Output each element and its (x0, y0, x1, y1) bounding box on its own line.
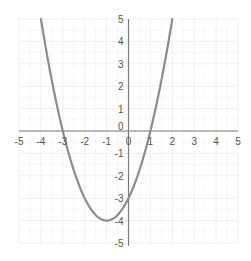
y-tick-label: 5 (118, 14, 124, 25)
x-tick-label: -5 (15, 136, 24, 147)
parabola-chart: -5-4-3-2-1012345 -5-4-3-2-1012345 (0, 0, 251, 261)
y-tick-label: -3 (115, 193, 124, 204)
y-tick-label: -4 (115, 216, 124, 227)
x-tick-label: -2 (80, 136, 89, 147)
y-tick-label: 2 (118, 81, 124, 92)
x-tick-label: -4 (36, 136, 45, 147)
x-tick-label: 5 (235, 136, 241, 147)
y-tick-label: -2 (115, 171, 124, 182)
x-tick-labels: -5-4-3-2-1012345 (15, 136, 242, 147)
x-tick-label: -3 (58, 136, 67, 147)
x-tick-label: 3 (191, 136, 197, 147)
y-tick-label: 4 (118, 36, 124, 47)
y-tick-label: 0 (118, 121, 124, 132)
x-tick-label: 4 (213, 136, 219, 147)
x-tick-label: 0 (126, 136, 132, 147)
x-tick-label: 1 (148, 136, 154, 147)
y-tick-label: 1 (118, 104, 124, 115)
y-tick-label: 3 (118, 59, 124, 70)
x-tick-label: -1 (102, 136, 111, 147)
x-tick-label: 2 (170, 136, 176, 147)
y-tick-label: -5 (115, 238, 124, 249)
y-tick-label: -1 (115, 148, 124, 159)
